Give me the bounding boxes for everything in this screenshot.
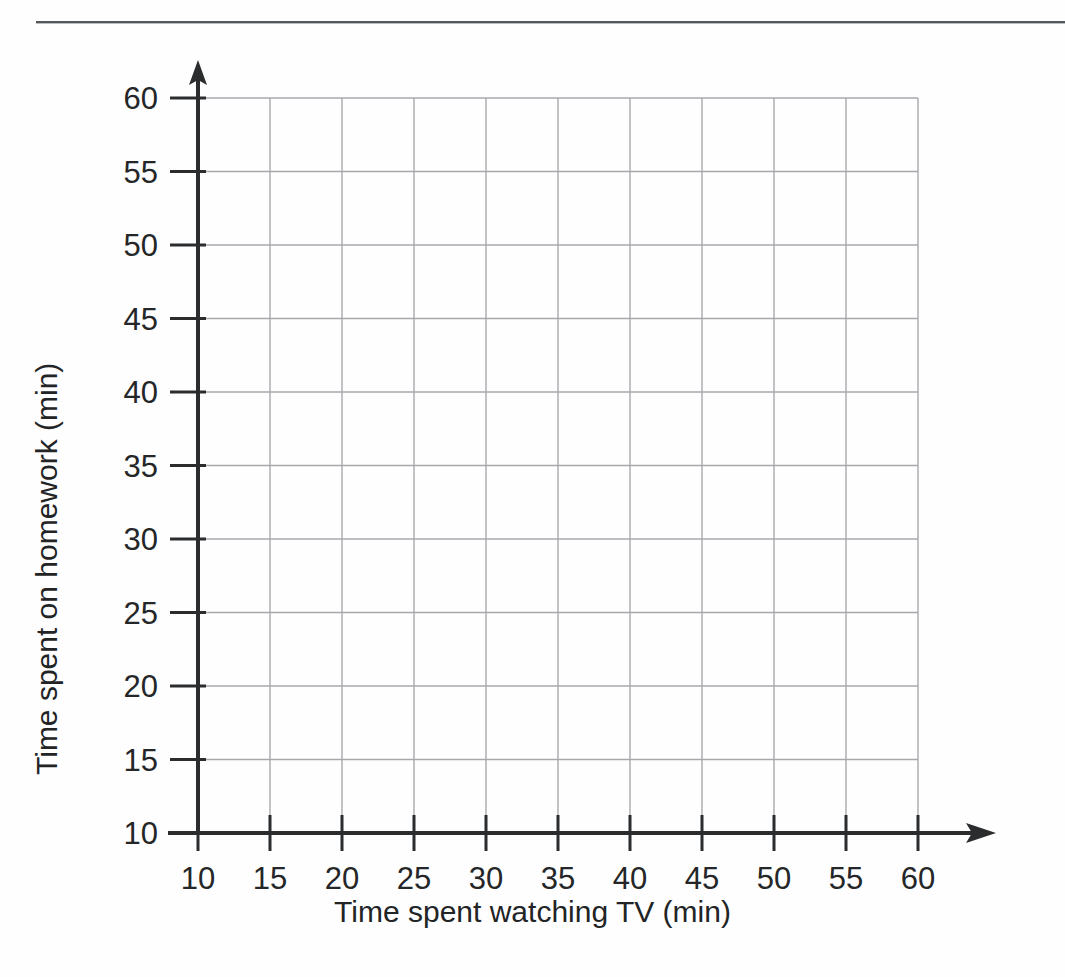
chart-canvas: 1015202530354045505560 10152025303540455…	[0, 0, 1065, 977]
x-tick-label-15: 15	[253, 861, 287, 896]
y-tick-label-30: 30	[124, 522, 158, 557]
x-tick-label-55: 55	[829, 861, 863, 896]
y-tick-label-20: 20	[124, 669, 158, 704]
x-tick-label-25: 25	[397, 861, 431, 896]
x-tick-label-45: 45	[685, 861, 719, 896]
y-tick-label-45: 45	[124, 302, 158, 337]
y-tick-label-25: 25	[124, 596, 158, 631]
x-axis-title: Time spent watching TV (min)	[0, 895, 1065, 929]
y-tick-label-60: 60	[124, 81, 158, 116]
x-tick-label-35: 35	[541, 861, 575, 896]
y-axis-tick-marks	[170, 98, 206, 833]
x-tick-label-10: 10	[181, 861, 215, 896]
scatter-plot-figure: 1015202530354045505560 10152025303540455…	[0, 0, 1065, 977]
y-tick-label-35: 35	[124, 449, 158, 484]
y-axis-tick-labels: 1015202530354045505560	[124, 81, 158, 851]
x-tick-label-30: 30	[469, 861, 503, 896]
y-tick-label-10: 10	[124, 816, 158, 851]
y-axis-title: Time spent on homework (min)	[30, 15, 64, 775]
y-tick-label-55: 55	[124, 155, 158, 190]
x-tick-label-40: 40	[613, 861, 647, 896]
x-tick-label-50: 50	[757, 861, 791, 896]
y-tick-label-40: 40	[124, 375, 158, 410]
worksheet-page: 1015202530354045505560 10152025303540455…	[0, 0, 1065, 977]
x-tick-label-20: 20	[325, 861, 359, 896]
x-axis-tick-labels: 1015202530354045505560	[181, 861, 935, 896]
y-tick-label-50: 50	[124, 228, 158, 263]
y-tick-label-15: 15	[124, 743, 158, 778]
x-tick-label-60: 60	[901, 861, 935, 896]
